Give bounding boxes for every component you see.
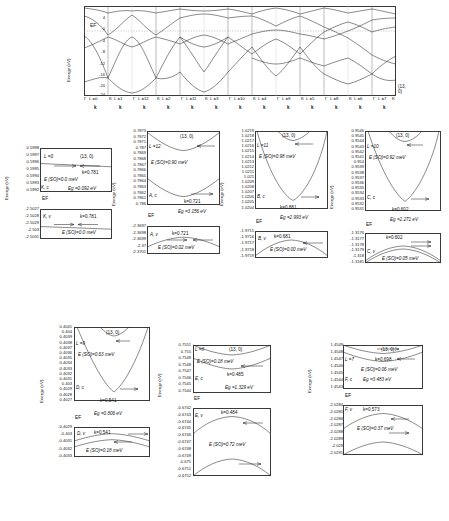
overview-seg-3-label: L =2 [162, 96, 170, 101]
panel-D: Energy (eV) 0.4041 0.404 0.4039 0.4038 0… [38, 327, 153, 507]
overview-seg-10-ktick: k [335, 105, 338, 110]
panel-K: Energy (eV) 0.5998 0.5997 0.5996 0.5995 … [2, 148, 114, 293]
overview-seg-11-label: L =6 [354, 96, 362, 101]
overview-seg-7-sym: K [253, 96, 256, 101]
overview-seg-5-label: L =3 [210, 96, 218, 101]
overview-seg-4-ktick: k [191, 105, 194, 110]
overview-seg-4-sym: Γ [181, 96, 183, 101]
overview-seg-0-sym: Γ [84, 96, 86, 101]
overview-seg-6-sym: Γ [229, 96, 231, 101]
overview-x-axis-row: Γ L =0 k K L =1 k Γ L =12 k K L =2 k Γ L… [84, 96, 396, 116]
overview-seg-2-label: L =12 [138, 96, 149, 101]
overview-seg-12-sym: Γ [373, 96, 375, 101]
overview-seg-1-ktick: k [119, 105, 122, 110]
overview-seg-11-sym: K [349, 96, 352, 101]
overview-band-structure-panel: Energy (eV) 4 0 -4 -8 -12 -16 -20 -24 EF… [62, 4, 402, 116]
overview-seg-10-sym: Γ [325, 96, 327, 101]
panel-B: Energy (eV) 1.0219 1.0218 1.0217 1.0216 … [218, 131, 330, 296]
overview-seg-11-ktick: k [359, 105, 362, 110]
overview-seg-4-label: L =11 [186, 96, 196, 101]
overview-seg-7-ktick: k [263, 105, 266, 110]
overview-seg-9-sym: K [301, 96, 304, 101]
panel-D-v-svg [38, 327, 153, 512]
overview-seg-0-ktick: k [94, 105, 97, 110]
figure-canvas: Energy (eV) 4 0 -4 -8 -12 -16 -20 -24 EF… [0, 0, 449, 521]
panel-F: Energy (eV) 1.4549 1.4548 1.4547 1.4546 … [305, 345, 447, 517]
overview-seg-1-label: L =1 [114, 96, 122, 101]
overview-seg-0-label: L =0 [89, 96, 97, 101]
overview-seg-12-label: L =7 [378, 96, 386, 101]
panel-C-v-svg [328, 131, 446, 301]
overview-seg-2-ktick: k [143, 105, 146, 110]
overview-seg-5-ktick: k [215, 105, 218, 110]
panel-C: Energy (eV) 0.9546 0.9545 0.9544 0.9543 … [328, 131, 446, 299]
panel-B-v-svg [218, 131, 330, 301]
overview-seg-8-label: L =9 [282, 96, 290, 101]
overview-seg-8-ktick: k [287, 105, 290, 110]
overview-seg-12-ktick: k [383, 105, 386, 110]
overview-seg-2-sym: Γ [133, 96, 135, 101]
overview-seg-1-sym: K [109, 96, 112, 101]
panel-E: Energy (eV) 0.7551 0.755 0.7549 0.7548 0… [155, 345, 273, 517]
overview-seg-9-label: L =5 [306, 96, 314, 101]
overview-seg-8-sym: Γ [277, 96, 279, 101]
panel-E-v-svg [155, 345, 273, 520]
overview-seg-7-label: L =4 [258, 96, 266, 101]
panel-F-v-svg [305, 345, 447, 520]
panel-K-v-svg [2, 148, 114, 293]
panel-A-v-svg [110, 131, 222, 301]
overview-seg-3-ktick: k [167, 105, 170, 110]
panel-A: Energy (eV) 0.7873 0.7872 0.7871 0.787 0… [110, 131, 222, 296]
overview-seg-6-ktick: k [239, 105, 242, 110]
overview-seg-12-right-sym: K [392, 96, 395, 101]
overview-seg-10-label: L =8 [330, 96, 338, 101]
overview-seg-3-sym: K [157, 96, 160, 101]
overview-seg-9-ktick: k [311, 105, 314, 110]
overview-seg-6-label: L =10 [234, 96, 245, 101]
overview-seg-5-sym: K [205, 96, 208, 101]
